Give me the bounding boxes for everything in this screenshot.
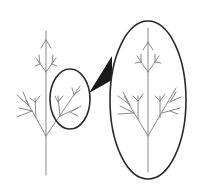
diagram-canvas bbox=[0, 0, 202, 189]
magnify-connector bbox=[89, 56, 112, 93]
fractal-diagram bbox=[0, 0, 202, 189]
whole-tree bbox=[17, 31, 81, 175]
magnified-branch bbox=[118, 28, 181, 172]
